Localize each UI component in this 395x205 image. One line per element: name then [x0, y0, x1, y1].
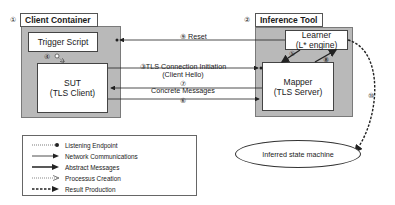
- legend: Listening Endpoint Network Communication…: [22, 135, 197, 196]
- legend-label: Network Communications: [65, 153, 138, 160]
- inferred-state-machine-label: Inferred state machine: [262, 150, 334, 159]
- learner-node: Learner (L* engine): [285, 30, 348, 50]
- legend-label: Processus Creation: [65, 175, 121, 182]
- thick-arrow-icon: [31, 163, 61, 171]
- reset-edge-label: ⑨ Reset: [180, 33, 207, 41]
- sut-label-line1: SUT: [64, 78, 81, 88]
- legend-item-abstract-messages: Abstract Messages: [31, 162, 119, 172]
- mapper-label-line1: Mapper: [284, 77, 313, 87]
- inferred-state-machine-node: Inferred state machine: [235, 140, 361, 168]
- mapper-learner-number: ⑧: [323, 56, 329, 64]
- legend-label: Result Production: [65, 186, 115, 193]
- client-container-title: Client Container: [20, 13, 98, 27]
- dotted-dot-line-icon: [31, 141, 61, 149]
- legend-label: Listening Endpoint: [65, 142, 118, 149]
- client-container-number: ①: [10, 16, 16, 24]
- concrete-messages-label: Concrete Messages: [151, 87, 215, 95]
- mapper-label-line2: (TLS Server): [274, 87, 323, 97]
- legend-item-network-communications: Network Communications: [31, 151, 138, 161]
- trigger-script-node: Trigger Script: [28, 32, 98, 52]
- sut-node: SUT (TLS Client): [37, 63, 108, 113]
- process-creation-number: ④: [44, 53, 50, 61]
- tls-init-label-line2: (Client Hello): [133, 71, 233, 79]
- mapper-node: Mapper (TLS Server): [262, 62, 334, 111]
- sut-label-line2: (TLS Client): [50, 88, 95, 98]
- learner-mapper-number: ⑤: [289, 50, 295, 58]
- inference-tool-number: ②: [244, 16, 250, 24]
- legend-item-listening-endpoint: Listening Endpoint: [31, 140, 118, 150]
- trigger-script-label: Trigger Script: [38, 37, 89, 47]
- legend-item-processus-creation: Processus Creation: [31, 173, 121, 183]
- inference-tool-title: Inference Tool: [255, 13, 323, 27]
- learner-label-line1: Learner: [302, 30, 331, 40]
- tls-init-edge-label: ③TLS Connection Initiation (Client Hello…: [133, 63, 233, 79]
- reset-number: ⑨: [180, 32, 186, 41]
- reset-label: Reset: [188, 32, 207, 41]
- learner-label-line2: (L* engine): [296, 40, 338, 50]
- concrete-messages-number-bottom: ⑥: [180, 97, 186, 105]
- solid-arrow-icon: [31, 152, 61, 160]
- dashed-thick-arrow-icon: [31, 185, 61, 193]
- result-number: ⑩: [368, 92, 374, 100]
- legend-label: Abstract Messages: [65, 164, 119, 171]
- dotted-open-arrow-icon: [31, 174, 61, 182]
- legend-item-result-production: Result Production: [31, 184, 115, 194]
